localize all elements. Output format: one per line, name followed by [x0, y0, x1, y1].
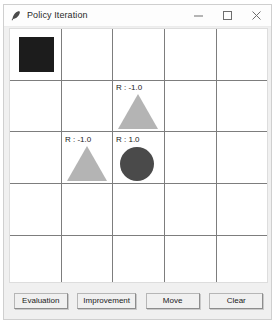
grid-line-vertical [216, 29, 217, 283]
gridworld-canvas[interactable]: R : -1.0 R : -1.0 R : 1.0 [9, 28, 268, 283]
window-controls [184, 5, 271, 26]
maximize-icon [222, 10, 233, 21]
goal-marker[interactable] [120, 147, 154, 181]
grid-line-horizontal [10, 80, 267, 81]
evaluation-button[interactable]: Evaluation [14, 293, 68, 309]
obstacle-triangle[interactable] [118, 94, 158, 129]
window-title: Policy Iteration [27, 11, 88, 20]
control-button-row: Evaluation Improvement Move Clear [9, 291, 268, 310]
reward-label-obstacle-2: R : -1.0 [65, 136, 91, 144]
close-icon [251, 10, 262, 21]
title-bar[interactable]: Policy Iteration [4, 5, 271, 27]
improvement-button[interactable]: Improvement [77, 293, 136, 309]
feather-icon [9, 9, 23, 23]
grid-line-vertical [164, 29, 165, 283]
grid-line-horizontal [10, 183, 267, 184]
client-area: R : -1.0 R : -1.0 R : 1.0 Evaluation Imp… [4, 27, 271, 319]
clear-button[interactable]: Clear [209, 293, 263, 309]
obstacle-triangle[interactable] [67, 146, 107, 181]
grid-line-vertical [61, 29, 62, 283]
grid-line-vertical [112, 29, 113, 283]
move-button[interactable]: Move [146, 293, 200, 309]
close-button[interactable] [242, 5, 271, 26]
grid-line-horizontal [10, 235, 267, 236]
maximize-button[interactable] [213, 5, 242, 26]
minimize-button[interactable] [184, 5, 213, 26]
reward-label-obstacle-1: R : -1.0 [116, 84, 142, 92]
application-window: Policy Iteration [3, 4, 272, 320]
grid-line-horizontal [10, 131, 267, 132]
minimize-icon [193, 10, 204, 21]
reward-label-goal: R : 1.0 [116, 136, 140, 144]
agent-marker[interactable] [19, 37, 54, 72]
